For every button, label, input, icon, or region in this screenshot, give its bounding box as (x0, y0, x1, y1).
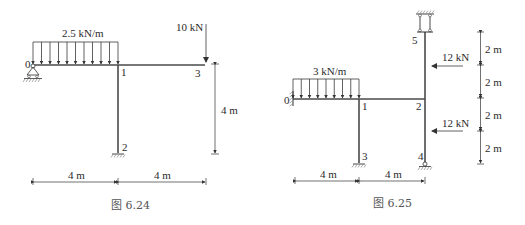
dimension-label: 2 m (485, 43, 502, 55)
figure-caption: 图 6.24 (111, 199, 150, 212)
horizontal-dimension (295, 177, 425, 184)
node-label: 4 (418, 150, 424, 162)
point-load-label: 12 kN (442, 117, 469, 129)
node-label: 2 (416, 100, 422, 112)
vertical-dimension (477, 32, 484, 164)
figure-caption: 图 6.25 (373, 197, 412, 210)
structural-diagrams: 2.5 kN/m 10 kN 0 1 2 3 4 m (0, 0, 525, 225)
fixed-support-icon (352, 164, 366, 168)
point-load-label: 10 kN (176, 21, 203, 33)
node-label: 3 (362, 150, 368, 162)
dimension-label: 4 m (154, 169, 171, 181)
dimension-label: 4 m (320, 168, 337, 180)
distributed-load-2-5 (33, 42, 118, 64)
horizontal-dimension (33, 178, 206, 185)
figure-6-25: 3 kN/m 12 (284, 11, 502, 211)
vertical-dimension (211, 64, 219, 154)
dimension-label: 2 m (485, 142, 502, 154)
node-label: 3 (195, 67, 201, 79)
node-label: 1 (362, 100, 368, 112)
distributed-load-label: 2.5 kN/m (62, 27, 104, 39)
node-label: 1 (121, 66, 127, 78)
dimension-label: 4 m (68, 169, 85, 181)
pin-support-icon (418, 162, 432, 170)
fixed-support-icon (111, 154, 125, 158)
dimension-label: 2 m (485, 76, 502, 88)
fixed-wall-support-icon (290, 91, 294, 106)
node-label: 0 (25, 58, 31, 70)
node-label: 2 (122, 141, 128, 153)
dimension-label: 4 m (385, 168, 402, 180)
node-label: 0 (284, 94, 290, 106)
double-link-support-icon (416, 11, 434, 33)
distributed-load-3 (293, 79, 359, 98)
point-load-label: 12 kN (442, 51, 469, 63)
figure-6-24: 2.5 kN/m 10 kN 0 1 2 3 4 m (23, 21, 238, 212)
dimension-label: 4 m (221, 104, 238, 116)
node-label: 5 (412, 34, 418, 46)
distributed-load-label: 3 kN/m (313, 65, 347, 77)
dimension-label: 2 m (485, 109, 502, 121)
